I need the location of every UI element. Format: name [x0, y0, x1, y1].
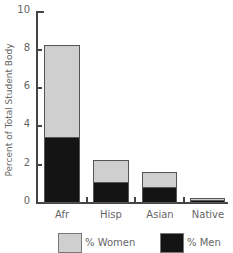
y-tick-label: 8 [16, 42, 30, 53]
y-tick-label: 10 [16, 4, 30, 15]
y-tick-label: 6 [16, 80, 30, 91]
bar-hisp-women [93, 160, 129, 183]
y-tick-label: 4 [16, 118, 30, 129]
y-tick [37, 87, 42, 89]
bar-native-men [190, 200, 225, 203]
y-tick [37, 49, 42, 51]
bar-hisp-men [93, 182, 129, 203]
y-tick [37, 202, 42, 204]
y-tick-label: 0 [16, 195, 30, 206]
x-tick [86, 197, 88, 203]
y-axis-label: Percent of Total Student Body [4, 43, 14, 176]
bar-asian-men [142, 187, 177, 203]
y-tick-label: 2 [16, 157, 30, 168]
x-tick [183, 197, 185, 203]
y-tick [37, 164, 42, 166]
y-tick [37, 125, 42, 127]
x-tick [134, 197, 136, 203]
legend-label-men: % Men [187, 237, 221, 248]
x-label-asian: Asian [135, 209, 185, 220]
x-label-native: Native [183, 209, 233, 220]
bar-asian-women [142, 172, 177, 188]
legend-swatch-men [160, 233, 184, 253]
y-tick [37, 11, 44, 13]
x-label-hisp: Hisp [86, 209, 136, 220]
bar-afr-women [44, 45, 80, 138]
legend-label-women: % Women [85, 237, 135, 248]
x-label-afr: Afr [37, 209, 87, 220]
bar-afr-men [44, 137, 80, 203]
y-axis-line [36, 11, 38, 203]
legend-swatch-women [58, 233, 82, 253]
